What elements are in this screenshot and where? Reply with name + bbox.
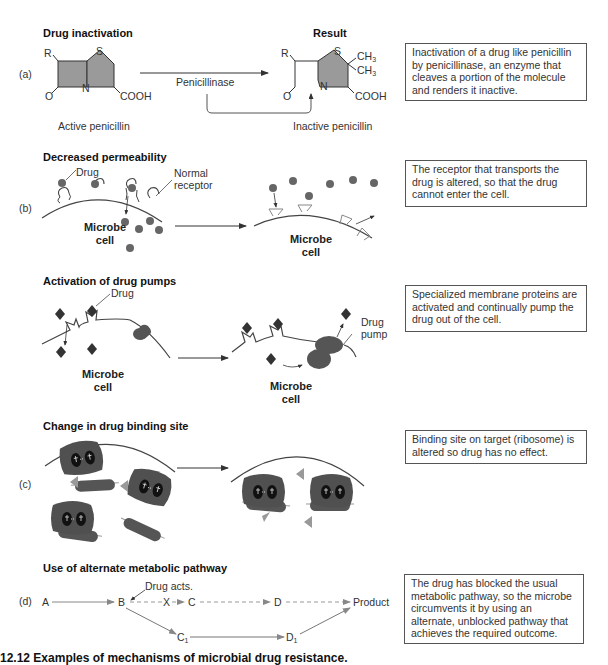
panel-a-letter: (a) [19,68,32,80]
drug-pumps-description: Specialized membrane proteins are activa… [405,285,587,332]
path-d1-to-product [300,608,350,634]
drug-label: Drug [76,166,99,178]
atom-o-result: O [283,90,291,102]
c1-text: C [177,631,185,643]
node-c1: C1 [177,631,189,644]
ribosome [242,474,285,508]
mrna-strand [118,514,166,544]
path-b-to-c1 [126,608,176,634]
subscript: 1 [294,637,298,644]
subscript: 1 [185,637,189,644]
atom-s: S [96,45,103,57]
receptor-leader-line [156,180,172,196]
pump-leader-line [343,334,352,345]
ribosome [57,438,105,479]
microbe-cell-label-after: Microbe cell [286,233,336,259]
normal-receptor-label: Normal receptor [174,167,224,191]
atom-r: R [44,47,52,59]
node-c: C [188,596,196,608]
drug-diamonds-after [242,308,351,365]
microbe-cell-label-pump-before: Microbe cell [78,368,128,394]
atom-s-result: S [334,45,341,57]
atom-cooh-result: COOH [355,90,387,102]
node-product: Product [353,596,389,608]
atom-n-result: N [320,80,328,92]
drug-leader-line [66,170,76,180]
pump-drug-leader-line [96,294,110,306]
decreased-permeability-title: Decreased permeability [43,151,167,163]
exit-arrow [356,216,374,224]
microbe-cell-label-pump-after: Microbe cell [266,380,316,406]
pump-drug-label: Drug [111,287,134,299]
ch3-text: CH [357,64,372,76]
panel-d-letter: (d) [19,595,32,607]
blocked-drug-arrow [274,193,276,207]
node-d1: D1 [286,631,298,644]
result-title: Result [313,27,347,39]
block-x: X [162,596,171,608]
alternate-pathway-description: The drug has blocked the usual metabolic… [404,574,584,644]
atom-n: N [82,82,90,94]
drug-acts-arrow [131,590,145,600]
drug-diamonds-before [55,305,97,358]
drug-pumps-title: Activation of drug pumps [43,275,176,287]
ribosome [310,474,353,508]
figure-caption: 12.12 Examples of mechanisms of microbia… [0,651,347,665]
subscript: 3 [372,70,376,77]
ch3-text: CH [357,50,372,62]
microbe-cell-label-before: Microbe cell [80,221,130,247]
atom-ch3-bottom: CH3 [357,64,376,77]
alternate-pathway-title: Use of alternate metabolic pathway [43,562,227,574]
drug-to-pump-arrow [283,365,302,367]
cell-membrane-with-pump [232,326,356,369]
drug-pump-label: Drug pump [361,316,395,340]
ribosomes [51,438,354,545]
node-d: D [274,596,282,608]
binding-site-description: Binding site on target (ribosome) is alt… [405,430,587,464]
atom-o: O [45,90,53,102]
drug-acts-label: Drug acts. [145,580,193,592]
d1-text: D [286,631,294,643]
ribosome [51,501,94,535]
atom-ch3-top: CH3 [357,50,376,63]
atom-r-result: R [281,47,289,59]
pump-arrow-entry [65,325,67,345]
active-penicillin-label: Active penicillin [58,120,130,132]
atom-cooh: COOH [120,90,152,102]
subscript: 3 [372,56,376,63]
node-a: A [42,596,49,608]
penicillinase-label: Penicillinase [176,76,234,88]
panel-c-letter: (c) [19,478,31,490]
inactive-penicillin-label: Inactive penicillin [293,120,372,132]
drug-inactivation-description: Inactivation of a drug like penicillin b… [405,43,587,101]
panel-b-letter: (b) [19,202,32,214]
binding-site-title: Change in drug binding site [43,420,188,432]
node-b: B [118,596,125,608]
decreased-permeability-description: The receptor that transports the drug is… [405,160,587,207]
enzyme-arrow [207,94,311,113]
drug-inactivation-title: Drug inactivation [43,27,133,39]
drug-molecules-blocked [269,176,378,200]
ribosome [125,465,175,509]
pump-expel-arrow [337,324,343,337]
